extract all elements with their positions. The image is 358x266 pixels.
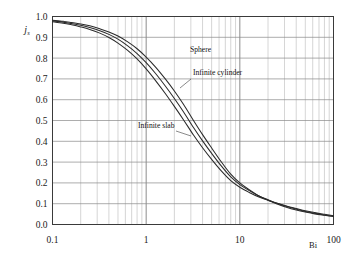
curve-label: Infinite cylinder [193, 68, 243, 77]
x-tick-label: 1 [144, 235, 149, 245]
js-vs-biot-number-chart: 0.00.10.20.30.40.50.60.70.80.91.00.11101… [0, 0, 358, 266]
y-tick-label: 1.0 [36, 12, 48, 22]
y-axis-ticks: 0.00.10.20.30.40.50.60.70.80.91.0 [36, 12, 48, 230]
chart-container: 0.00.10.20.30.40.50.60.70.80.91.00.11101… [0, 0, 358, 266]
y-tick-label: 0.9 [36, 33, 48, 43]
y-tick-label: 0.0 [36, 220, 48, 230]
curve-label: Infinite slab [138, 121, 175, 130]
x-tick-label: 10 [235, 235, 245, 245]
x-tick-label: 0.1 [47, 235, 59, 245]
curve-label: Sphere [190, 45, 212, 54]
y-tick-label: 0.4 [36, 137, 48, 147]
x-axis-label: Bi [309, 240, 318, 250]
y-tick-label: 0.2 [36, 178, 48, 188]
y-tick-label: 0.8 [36, 54, 48, 64]
x-axis-ticks: 0.1110100 [47, 235, 341, 245]
x-tick-label: 100 [326, 235, 341, 245]
y-tick-label: 0.5 [36, 116, 48, 126]
y-tick-label: 0.1 [36, 199, 48, 209]
y-tick-label: 0.3 [36, 158, 48, 168]
y-axis-label: js [22, 24, 30, 36]
y-tick-label: 0.7 [36, 74, 48, 84]
y-tick-label: 0.6 [36, 95, 48, 105]
